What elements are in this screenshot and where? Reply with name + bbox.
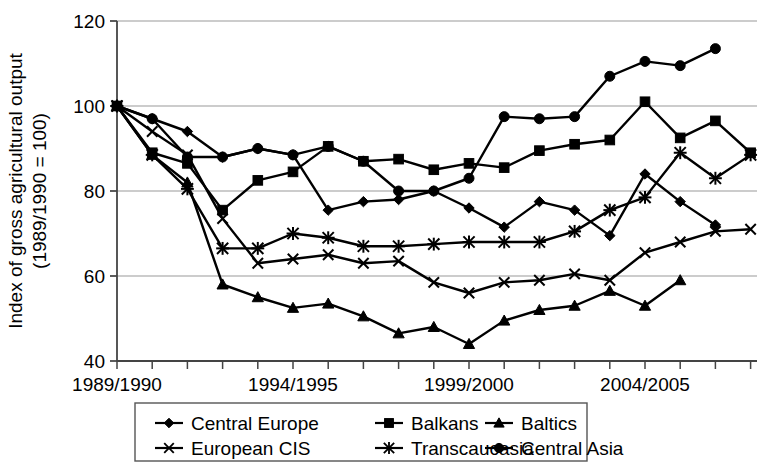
x-tick-label: 1999/2000 (424, 374, 514, 395)
data-point-square (711, 116, 721, 126)
x-tick-label: 1994/1995 (248, 374, 338, 395)
data-point-circle (218, 152, 228, 162)
y-tick-label: 100 (73, 96, 105, 117)
data-point-circle (675, 61, 685, 71)
series-line (117, 106, 751, 293)
y-axis-title-line2: (1989/1990 = 100) (29, 113, 50, 269)
y-axis-title-line1: Index of gross agricultural output (5, 52, 26, 328)
data-point-circle (494, 443, 503, 452)
data-point-diamond (164, 418, 174, 428)
series-central-europe (112, 101, 721, 241)
data-point-circle (394, 186, 404, 196)
legend-item-balkans[interactable]: Balkans (375, 413, 479, 434)
grid-and-axes: 4060801001201989/19901994/19951999/20002… (72, 11, 757, 395)
data-point-circle (288, 150, 298, 160)
data-point-triangle (428, 321, 439, 331)
y-tick-label: 60 (84, 266, 105, 287)
legend: Central EuropeBalkansBalticsEuropean CIS… (135, 403, 624, 461)
data-point-square (675, 133, 685, 143)
data-point-square (605, 135, 615, 145)
data-point-square (640, 97, 650, 107)
data-point-circle (358, 156, 368, 166)
data-point-triangle (604, 285, 615, 295)
data-point-diamond (464, 203, 474, 213)
data-point-square (394, 154, 404, 164)
x-tick-label: 2004/2005 (600, 374, 690, 395)
data-point-square (429, 165, 439, 175)
data-point-circle (182, 152, 192, 162)
legend-item-central-europe[interactable]: Central Europe (155, 413, 319, 434)
x-tick-label: 1989/1990 (72, 374, 162, 395)
series-line (117, 49, 715, 191)
legend-label: Baltics (521, 413, 577, 434)
chart-figure: 4060801001201989/19901994/19951999/20002… (0, 0, 763, 464)
data-point-square (499, 163, 509, 173)
data-point-circle (323, 141, 333, 151)
data-point-circle (534, 114, 544, 124)
data-point-circle (429, 186, 439, 196)
data-point-circle (253, 144, 263, 154)
legend-label: Transcaucasia (411, 438, 534, 459)
legend-item-european-cis[interactable]: European CIS (155, 438, 310, 459)
y-axis-title: Index of gross agricultural output(1989/… (5, 52, 50, 328)
series-line (117, 106, 751, 248)
legend-label: Central Europe (191, 413, 319, 434)
legend-item-baltics[interactable]: Baltics (485, 413, 577, 434)
data-point-circle (710, 44, 720, 54)
data-point-circle (112, 101, 122, 111)
data-point-triangle (463, 338, 474, 348)
data-point-square (288, 167, 298, 177)
data-point-circle (605, 71, 615, 81)
legend-label: Balkans (411, 413, 479, 434)
series-line (117, 106, 715, 236)
data-point-circle (147, 114, 157, 124)
data-point-circle (464, 173, 474, 183)
data-point-square (464, 159, 474, 169)
data-point-circle (640, 56, 650, 66)
legend-label: European CIS (191, 438, 310, 459)
y-tick-label: 120 (73, 11, 105, 32)
data-point-circle (570, 112, 580, 122)
data-point-circle (499, 112, 509, 122)
data-point-triangle (217, 279, 228, 289)
data-point-diamond (358, 196, 368, 206)
data-point-square (253, 176, 263, 186)
series-transcaucasia (111, 100, 757, 255)
series-european-cis (112, 101, 756, 298)
data-point-square (570, 139, 580, 149)
line-chart: 4060801001201989/19901994/19951999/20002… (0, 0, 763, 464)
data-point-square (535, 146, 545, 156)
data-point-square (385, 419, 394, 428)
y-tick-label: 40 (84, 351, 105, 372)
y-tick-label: 80 (84, 181, 105, 202)
legend-label: Central Asia (521, 438, 624, 459)
